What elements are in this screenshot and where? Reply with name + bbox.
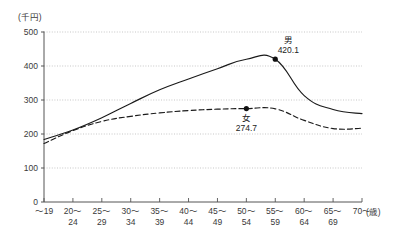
- annotation-female-label: 女: [222, 113, 270, 123]
- annotation-male-value: 420.1: [264, 45, 312, 55]
- y-axis-label: 100: [12, 163, 38, 173]
- series-line-女: [44, 108, 362, 144]
- y-axis-label: 400: [12, 61, 38, 71]
- x-axis-label: 70～: [345, 206, 379, 217]
- x-axis-ticks: [44, 198, 362, 202]
- line-chart: (千円) (歳) 5004003002001000 ～1920～2425～293…: [0, 0, 399, 247]
- data-point-markers: [244, 57, 278, 112]
- axis-lines: [41, 32, 362, 203]
- annotation-male-label: 男: [264, 35, 312, 45]
- gridlines: [44, 32, 362, 168]
- x-axis-label-line: 70～: [345, 206, 379, 217]
- series-layer: [44, 55, 362, 143]
- annotation-female: 女 274.7: [222, 113, 270, 133]
- x-axis-label-line: 69: [316, 217, 350, 228]
- data-point-marker-男: [273, 57, 278, 62]
- y-axis-label: 0: [12, 197, 38, 207]
- y-axis-label: 500: [12, 27, 38, 37]
- data-point-marker-女: [244, 106, 249, 111]
- y-axis-label: 200: [12, 129, 38, 139]
- y-axis-label: 300: [12, 95, 38, 105]
- annotation-female-value: 274.7: [222, 123, 270, 133]
- y-axis-unit-label: (千円): [18, 10, 42, 22]
- series-line-男: [44, 55, 362, 139]
- annotation-male: 男 420.1: [264, 35, 312, 55]
